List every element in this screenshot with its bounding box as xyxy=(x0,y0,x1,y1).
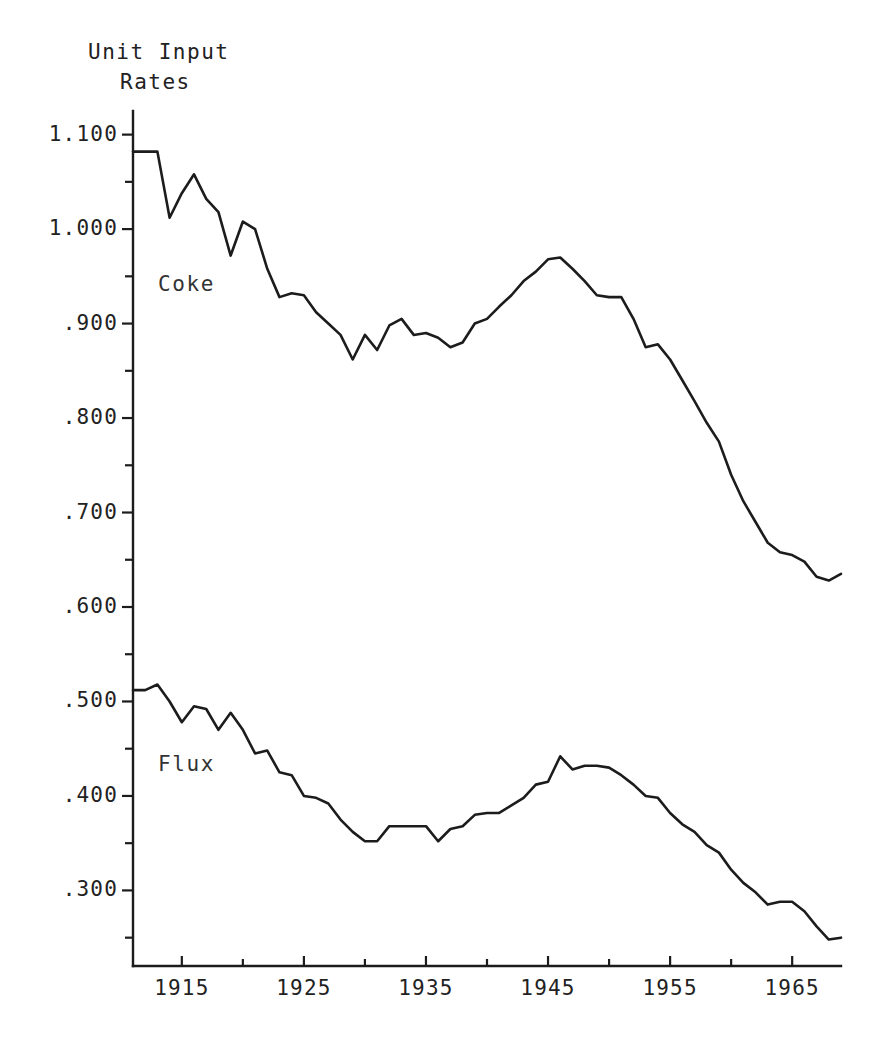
chart-plot-area xyxy=(0,0,887,1062)
series-line-coke xyxy=(133,152,841,581)
x-axis-ticks xyxy=(182,956,792,966)
series-line-flux xyxy=(133,684,841,939)
y-axis-ticks xyxy=(122,135,133,938)
chart-figure: Unit Input Rates Coke Flux 1.1001.000.90… xyxy=(0,0,887,1062)
